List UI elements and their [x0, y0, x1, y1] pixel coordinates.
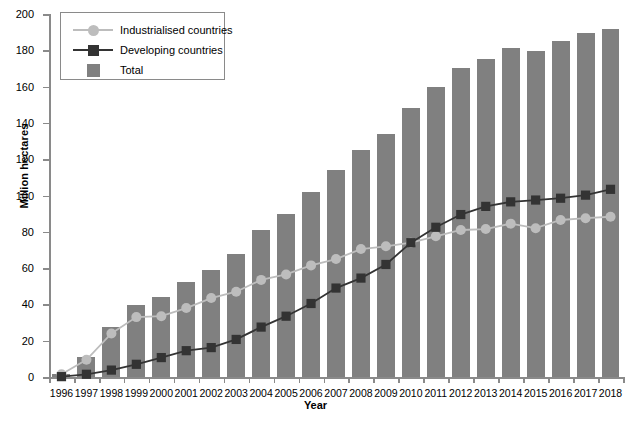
x-tick-label: 1996 [50, 387, 73, 399]
legend-item-developing: Developing countries [61, 40, 224, 60]
circle-marker-icon [531, 223, 541, 233]
legend-circle-marker-icon [71, 21, 115, 39]
x-tick-label: 2009 [374, 387, 397, 399]
circle-marker-icon [581, 213, 591, 223]
square-marker-icon [406, 238, 415, 247]
x-tick-label: 1998 [100, 387, 123, 399]
legend-label-developing: Developing countries [120, 44, 223, 56]
y-tick-label: 140 [16, 117, 34, 129]
square-marker-icon [331, 283, 340, 292]
chart-legend: Industrialised countries Developing coun… [60, 12, 225, 80]
x-tick-label: 2005 [274, 387, 297, 399]
circle-marker-icon [606, 212, 616, 222]
line-path [61, 189, 610, 376]
circle-marker-icon [106, 328, 116, 338]
square-marker-icon [456, 210, 465, 219]
line-path [61, 217, 610, 375]
circle-marker-icon [456, 225, 466, 235]
square-marker-icon [57, 372, 66, 381]
x-tick-label: 2006 [299, 387, 322, 399]
circle-marker-icon [556, 215, 566, 225]
y-tick-label: 200 [16, 8, 34, 20]
circle-marker-icon [81, 355, 91, 365]
circle-marker-icon [481, 224, 491, 234]
circle-marker-icon [131, 312, 141, 322]
x-tick-label: 2007 [324, 387, 347, 399]
square-marker-icon [157, 353, 166, 362]
square-marker-icon [132, 360, 141, 369]
square-marker-icon [481, 202, 490, 211]
square-marker-icon [356, 273, 365, 282]
x-tick-label: 2017 [574, 387, 597, 399]
x-tick [249, 377, 251, 383]
x-axis-title: Year [0, 399, 631, 411]
square-marker-icon [431, 223, 440, 232]
circle-marker-icon [231, 287, 241, 297]
y-tick-label: 20 [22, 335, 34, 347]
x-tick-label: 2012 [449, 387, 472, 399]
x-tick [274, 377, 276, 383]
x-tick [299, 377, 301, 383]
square-marker-icon [606, 185, 615, 194]
square-marker-icon [207, 343, 216, 352]
square-marker-icon [232, 335, 241, 344]
circle-marker-icon [206, 293, 216, 303]
y-tick-label: 40 [22, 298, 34, 310]
x-tick-label: 2013 [474, 387, 497, 399]
x-tick-label: 2003 [224, 387, 247, 399]
circle-marker-icon [431, 231, 441, 241]
chart-container: Million hectares Year 020406080100120140… [0, 0, 631, 422]
x-tick [448, 377, 450, 383]
square-marker-icon [107, 366, 116, 375]
circle-marker-icon [331, 254, 341, 264]
y-tick-label: 160 [16, 81, 34, 93]
y-tick-label: 80 [22, 226, 34, 238]
x-tick [373, 377, 375, 383]
x-tick-label: 2010 [399, 387, 422, 399]
x-tick [573, 377, 575, 383]
x-tick [124, 377, 126, 383]
x-tick [224, 377, 226, 383]
circle-marker-icon [356, 244, 366, 254]
x-tick-label: 2016 [549, 387, 572, 399]
y-tick-label: 120 [16, 153, 34, 165]
x-tick [348, 377, 350, 383]
legend-item-industrialised: Industrialised countries [61, 20, 224, 40]
circle-marker-icon [306, 260, 316, 270]
square-marker-icon [531, 195, 540, 204]
circle-marker-icon [381, 241, 391, 251]
x-tick [49, 377, 51, 383]
x-tick [523, 377, 525, 383]
circle-marker-icon [256, 275, 266, 285]
square-marker-icon [556, 194, 565, 203]
circle-marker-icon [156, 311, 166, 321]
square-marker-icon [182, 346, 191, 355]
y-tick-label: 100 [16, 190, 34, 202]
x-tick [598, 377, 600, 383]
x-tick-label: 2008 [349, 387, 372, 399]
square-marker-icon [381, 260, 390, 269]
legend-square-marker-icon [71, 41, 115, 59]
x-tick-label: 2001 [175, 387, 198, 399]
y-tick-label: 0 [28, 371, 34, 383]
square-marker-icon [506, 197, 515, 206]
x-tick [398, 377, 400, 383]
x-tick [99, 377, 101, 383]
x-tick [174, 377, 176, 383]
x-tick [324, 377, 326, 383]
x-tick-label: 1999 [125, 387, 148, 399]
square-marker-icon [581, 191, 590, 200]
x-tick-label: 2015 [524, 387, 547, 399]
square-marker-icon [257, 322, 266, 331]
circle-marker-icon [506, 219, 516, 229]
x-tick [473, 377, 475, 383]
x-tick-label: 1997 [75, 387, 98, 399]
legend-patch-icon [71, 61, 115, 79]
legend-label-total: Total [120, 64, 143, 76]
legend-item-total: Total [61, 60, 224, 80]
x-tick [199, 377, 201, 383]
square-marker-icon [306, 299, 315, 308]
x-tick [623, 377, 625, 383]
legend-label-industrialised: Industrialised countries [120, 24, 233, 36]
x-axis-line [49, 377, 623, 379]
